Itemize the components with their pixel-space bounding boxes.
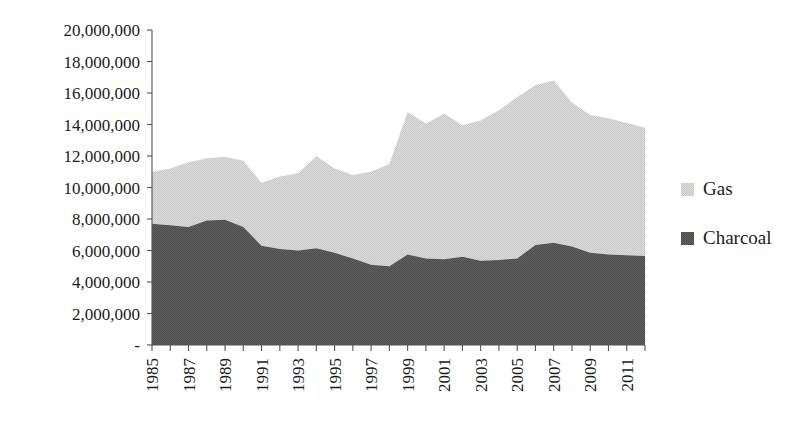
legend-swatch-charcoal	[681, 232, 694, 245]
y-tick-label: 6,000,000	[72, 242, 140, 261]
legend-label-gas: Gas	[703, 178, 733, 199]
y-tick-label: -	[134, 336, 140, 355]
x-tick-label: 1991	[253, 358, 272, 392]
y-axis-tick-labels: -2,000,0004,000,0006,000,0008,000,00010,…	[64, 21, 141, 355]
x-tick-label: 2003	[472, 358, 491, 392]
y-tick-label: 16,000,000	[64, 84, 141, 103]
x-tick-label: 2009	[581, 358, 600, 392]
chart-canvas: -2,000,0004,000,0006,000,0008,000,00010,…	[0, 0, 811, 428]
y-tick-label: 20,000,000	[64, 21, 141, 40]
legend-label-charcoal: Charcoal	[703, 227, 772, 248]
y-tick-label: 4,000,000	[72, 273, 140, 292]
stacked-area-chart: -2,000,0004,000,0006,000,0008,000,00010,…	[0, 0, 811, 428]
y-tick-label: 8,000,000	[72, 210, 140, 229]
x-tick-label: 2001	[435, 358, 454, 392]
y-tick-label: 10,000,000	[64, 179, 141, 198]
y-axis: -2,000,0004,000,0006,000,0008,000,00010,…	[64, 21, 153, 355]
legend-swatch-gas	[681, 183, 694, 196]
x-tick-label: 1993	[289, 358, 308, 392]
y-tick-label: 18,000,000	[64, 53, 141, 72]
y-tick-label: 2,000,000	[72, 305, 140, 324]
y-tick-label: 12,000,000	[64, 147, 141, 166]
x-tick-label: 2011	[618, 358, 637, 391]
x-tick-label: 1989	[216, 358, 235, 392]
x-tick-label: 2007	[545, 358, 564, 393]
x-tick-label: 2005	[508, 358, 527, 392]
x-tick-label: 1995	[326, 358, 345, 392]
x-tick-label: 1999	[399, 358, 418, 392]
y-tick-label: 14,000,000	[64, 116, 141, 135]
x-tick-label: 1997	[362, 358, 381, 393]
x-tick-label: 1985	[143, 358, 162, 392]
x-tick-label: 1987	[180, 358, 199, 393]
